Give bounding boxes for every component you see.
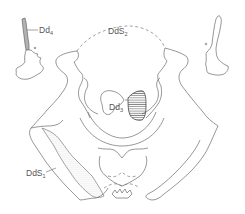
right-detail-shape xyxy=(205,16,228,75)
label-dds2: DdS2 xyxy=(108,26,128,37)
dd4-stripe-region xyxy=(22,18,29,50)
dd3-hatched-region xyxy=(128,91,146,120)
label-dd4: Dd4 xyxy=(39,25,53,36)
label-dds1: DdS1 xyxy=(26,168,46,179)
inkblot-diagram: Dd4 DdS2 Dd3 DdS1 xyxy=(0,0,245,214)
main-figure xyxy=(30,48,218,200)
dds1-stipple-region xyxy=(42,128,104,198)
